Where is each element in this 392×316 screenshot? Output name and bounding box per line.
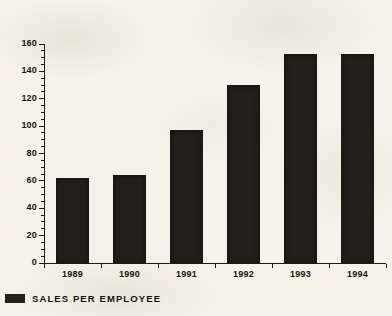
x-tick-label-1994: 1994: [336, 270, 380, 279]
chart-screenshot: 020406080100120140160 198919901991199219…: [0, 0, 392, 316]
x-tick: [329, 264, 330, 268]
y-tick-major: [39, 153, 45, 154]
y-tick-label: 140: [9, 66, 37, 75]
y-tick-major: [39, 44, 45, 45]
y-tick-minor: [41, 194, 45, 195]
y-tick-minor: [41, 174, 45, 175]
y-tick-minor: [41, 105, 45, 106]
y-tick-major: [39, 180, 45, 181]
y-tick-label: 160: [9, 39, 37, 48]
y-tick-minor: [41, 249, 45, 250]
y-tick-major: [39, 98, 45, 99]
y-tick-minor: [41, 221, 45, 222]
y-tick-minor: [41, 64, 45, 65]
y-tick-minor: [41, 78, 45, 79]
y-tick-minor: [41, 167, 45, 168]
y-tick-minor: [41, 187, 45, 188]
y-tick-minor: [41, 160, 45, 161]
y-tick-label: 0: [9, 258, 37, 267]
x-tick-label-1993: 1993: [279, 270, 323, 279]
y-tick-label: 40: [9, 203, 37, 212]
y-tick-minor: [41, 91, 45, 92]
x-tick: [215, 264, 216, 268]
x-tick-label-1992: 1992: [222, 270, 266, 279]
x-tick-label-1991: 1991: [165, 270, 209, 279]
x-tick: [101, 264, 102, 268]
bar-1991: [170, 130, 203, 263]
legend-swatch-sales-per-employee: [5, 294, 25, 303]
y-tick-label: 100: [9, 121, 37, 130]
y-tick-minor: [41, 201, 45, 202]
y-tick-minor: [41, 132, 45, 133]
y-tick-major: [39, 126, 45, 127]
y-tick-minor: [41, 50, 45, 51]
x-tick-end: [386, 264, 387, 268]
y-tick-minor: [41, 146, 45, 147]
legend-label-sales-per-employee: SALES PER EMPLOYEE: [32, 294, 161, 304]
chart-legend: SALES PER EMPLOYEE: [5, 294, 161, 304]
y-tick-minor: [41, 112, 45, 113]
y-tick-major: [39, 208, 45, 209]
bar-chart-plot-area: 020406080100120140160 198919901991199219…: [0, 0, 392, 316]
bar-1989: [56, 178, 89, 263]
y-tick-label: 20: [9, 231, 37, 240]
y-tick-minor: [41, 215, 45, 216]
bar-1992: [227, 85, 260, 263]
y-tick-minor: [41, 228, 45, 229]
y-tick-major: [39, 235, 45, 236]
x-tick-label-1990: 1990: [108, 270, 152, 279]
y-tick-minor: [41, 119, 45, 120]
y-tick-minor: [41, 85, 45, 86]
y-tick-minor: [41, 139, 45, 140]
y-tick-minor: [41, 242, 45, 243]
bar-1993: [284, 54, 317, 263]
y-tick-label: 60: [9, 176, 37, 185]
x-tick: [272, 264, 273, 268]
bar-1994: [341, 54, 374, 263]
bar-1990: [113, 175, 146, 263]
x-tick: [158, 264, 159, 268]
y-tick-minor: [41, 57, 45, 58]
y-tick-minor: [41, 256, 45, 257]
y-tick-label: 120: [9, 94, 37, 103]
x-tick-label-1989: 1989: [51, 270, 95, 279]
y-tick-label: 80: [9, 149, 37, 158]
x-tick: [44, 264, 45, 268]
y-tick-major: [39, 71, 45, 72]
